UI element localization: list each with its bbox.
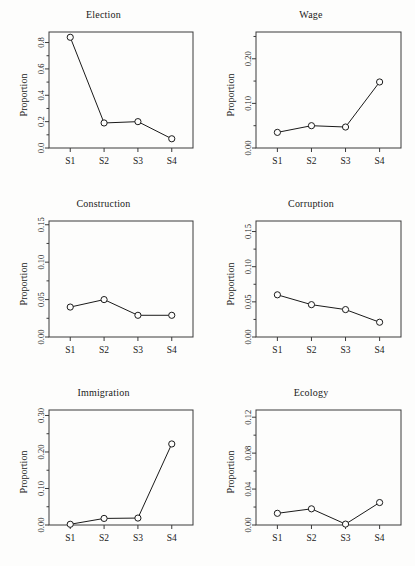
- plot-area: 0.000.100.20S1S2S3S4: [207, 0, 415, 189]
- data-point-marker: [377, 319, 383, 325]
- x-tick-label: S3: [341, 345, 351, 355]
- x-tick-label: S3: [341, 156, 351, 166]
- y-tick-label: 0.30: [36, 408, 46, 423]
- x-tick-label: S1: [272, 533, 282, 543]
- chart-panel-construction: ConstructionProportion0.000.050.100.15S1…: [0, 189, 207, 378]
- series-line: [277, 82, 379, 132]
- x-tick-label: S3: [133, 156, 143, 166]
- x-tick-label: S2: [99, 156, 109, 166]
- x-tick-label: S4: [167, 156, 177, 166]
- x-tick-label: S3: [133, 533, 143, 543]
- x-tick-label: S2: [99, 345, 109, 355]
- data-point-marker: [169, 312, 175, 318]
- y-tick-label: 0.12: [243, 410, 253, 425]
- y-tick-label: 0.0: [36, 143, 46, 154]
- x-tick-label: S1: [65, 533, 75, 543]
- data-point-marker: [135, 119, 141, 125]
- data-point-marker: [67, 521, 73, 527]
- data-point-marker: [101, 296, 107, 302]
- x-tick-label: S4: [375, 156, 385, 166]
- y-tick-label: 0.6: [36, 64, 46, 75]
- y-tick-label: 0.00: [36, 518, 46, 533]
- data-point-marker: [135, 312, 141, 318]
- y-tick-label: 0.10: [36, 255, 46, 270]
- x-tick-label: S3: [133, 345, 143, 355]
- plot-area: 0.000.100.200.30S1S2S3S4: [0, 378, 207, 566]
- y-tick-label: 0.15: [243, 224, 253, 239]
- data-point-marker: [67, 304, 73, 310]
- y-tick-label: 0.2: [36, 116, 46, 127]
- data-point-marker: [135, 515, 141, 521]
- plot-area: 0.00.20.40.60.8S1S2S3S4: [0, 0, 207, 189]
- series-line: [70, 300, 172, 316]
- y-tick-label: 0.05: [243, 294, 253, 309]
- y-tick-label: 0.08: [243, 446, 253, 461]
- x-tick-label: S1: [272, 345, 282, 355]
- x-tick-label: S2: [306, 533, 316, 543]
- y-tick-label: 0.15: [36, 217, 46, 232]
- x-tick-label: S2: [306, 345, 316, 355]
- data-point-marker: [377, 79, 383, 85]
- chart-panel-ecology: EcologyProportion0.000.040.080.12S1S2S3S…: [207, 378, 415, 566]
- x-tick-label: S1: [272, 156, 282, 166]
- chart-panel-election: ElectionProportion0.00.20.40.60.8S1S2S3S…: [0, 0, 207, 189]
- y-tick-label: 0.00: [243, 330, 253, 345]
- data-point-marker: [101, 515, 107, 521]
- data-point-marker: [274, 292, 280, 298]
- x-tick-label: S4: [167, 533, 177, 543]
- plot-area: 0.000.050.100.15S1S2S3S4: [207, 189, 415, 378]
- x-tick-label: S4: [167, 345, 177, 355]
- y-tick-label: 0.20: [36, 445, 46, 460]
- plot-frame: [49, 410, 193, 525]
- series-line: [277, 295, 379, 322]
- series-line: [277, 503, 379, 525]
- data-point-marker: [308, 123, 314, 129]
- data-point-marker: [169, 441, 175, 447]
- data-point-marker: [274, 129, 280, 135]
- chart-panel-immigration: ImmigrationProportion0.000.100.200.30S1S…: [0, 378, 207, 566]
- plot-area: 0.000.040.080.12S1S2S3S4: [207, 378, 415, 566]
- series-line: [70, 444, 172, 524]
- y-tick-label: 0.00: [243, 141, 253, 156]
- y-tick-label: 0.10: [36, 481, 46, 496]
- x-tick-label: S2: [99, 533, 109, 543]
- y-tick-label: 0.00: [243, 518, 253, 533]
- x-tick-label: S4: [375, 345, 385, 355]
- y-tick-label: 0.20: [243, 51, 253, 66]
- x-tick-label: S1: [65, 345, 75, 355]
- chart-panel-corruption: CorruptionProportion0.000.050.100.15S1S2…: [207, 189, 415, 378]
- panel-grid: ElectionProportion0.00.20.40.60.8S1S2S3S…: [0, 0, 415, 566]
- data-point-marker: [342, 306, 348, 312]
- chart-panel-wage: WageProportion0.000.100.20S1S2S3S4: [207, 0, 415, 189]
- data-point-marker: [342, 124, 348, 130]
- y-tick-label: 0.00: [36, 330, 46, 345]
- data-point-marker: [342, 521, 348, 527]
- x-tick-label: S2: [306, 156, 316, 166]
- x-tick-label: S4: [375, 533, 385, 543]
- y-tick-label: 0.8: [36, 37, 46, 48]
- y-tick-label: 0.10: [243, 259, 253, 274]
- series-line: [70, 37, 172, 138]
- plot-frame: [49, 32, 193, 148]
- data-point-marker: [169, 136, 175, 142]
- y-tick-label: 0.10: [243, 96, 253, 111]
- data-point-marker: [101, 120, 107, 126]
- data-point-marker: [308, 506, 314, 512]
- y-tick-label: 0.05: [36, 292, 46, 307]
- plot-frame: [49, 221, 193, 337]
- data-point-marker: [67, 34, 73, 40]
- x-tick-label: S1: [65, 156, 75, 166]
- plot-area: 0.000.050.100.15S1S2S3S4: [0, 189, 207, 378]
- y-tick-label: 0.4: [36, 89, 46, 100]
- data-point-marker: [308, 302, 314, 308]
- plot-frame: [256, 410, 401, 525]
- data-point-marker: [377, 499, 383, 505]
- x-tick-label: S3: [341, 533, 351, 543]
- data-point-marker: [274, 510, 280, 516]
- y-tick-label: 0.04: [243, 481, 253, 497]
